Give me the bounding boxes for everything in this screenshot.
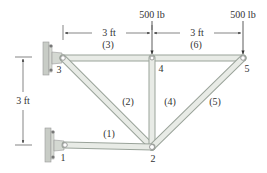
member-1 (65, 145, 152, 147)
node-2-label: 2 (151, 153, 156, 164)
pin-node-4 (150, 56, 154, 60)
pin-node-2 (150, 145, 155, 150)
dimension-3-4-label: 3 ft (102, 27, 116, 38)
pin-node-3 (61, 56, 66, 61)
member-6-label: (6) (190, 39, 202, 51)
load-node-4-label: 500 lb (139, 9, 164, 20)
pin-node-5 (241, 56, 246, 61)
node-4-label: 4 (159, 63, 164, 74)
member-1-label: (1) (103, 128, 115, 140)
member-2-label: (2) (122, 96, 134, 108)
pin-node-1 (63, 143, 68, 148)
load-node-5-label: 500 lb (230, 9, 255, 20)
node-3-label: 3 (57, 64, 62, 75)
dimension-4-5-label: 3 ft (190, 27, 204, 38)
member-4-label: (4) (164, 96, 176, 108)
member-3-label: (3) (102, 39, 114, 51)
truss-diagram: 3 ft 3 ft 3 ft 500 lb 500 lb (3) (6) (2)… (0, 0, 267, 173)
node-1-label: 1 (61, 152, 66, 163)
node-5-label: 5 (245, 63, 250, 74)
member-5-label: (5) (209, 96, 221, 108)
dimension-vertical-label: 3 ft (16, 95, 30, 106)
